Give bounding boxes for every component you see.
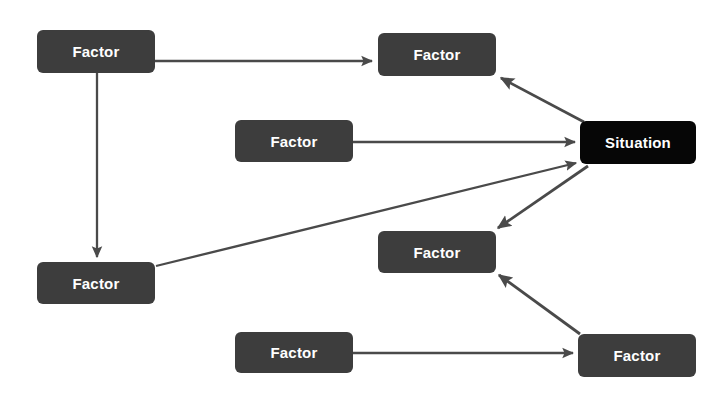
node-factor-bottom-left[interactable]: Factor bbox=[37, 262, 155, 304]
edge-situation-to-factor-mid-right bbox=[498, 166, 588, 228]
node-label: Factor bbox=[413, 245, 460, 260]
edge-factor-bottom-right-to-factor-mid-right bbox=[499, 275, 580, 334]
node-factor-bottom-right[interactable]: Factor bbox=[578, 334, 696, 377]
edge-situation-to-factor-top-right bbox=[501, 78, 584, 122]
node-label: Factor bbox=[613, 348, 660, 363]
node-label: Factor bbox=[270, 345, 317, 360]
node-factor-bottom-middle[interactable]: Factor bbox=[235, 332, 353, 373]
node-factor-top-right[interactable]: Factor bbox=[378, 33, 496, 76]
node-label: Factor bbox=[413, 47, 460, 62]
node-label: Factor bbox=[72, 276, 119, 291]
node-situation[interactable]: Situation bbox=[580, 121, 696, 164]
diagram-canvas: Factor Factor Factor Situation Factor Fa… bbox=[0, 0, 718, 407]
node-factor-middle[interactable]: Factor bbox=[235, 120, 353, 162]
edge-factor-bottom-left-to-situation bbox=[156, 163, 576, 266]
node-factor-top-left[interactable]: Factor bbox=[37, 30, 155, 73]
node-label: Factor bbox=[72, 44, 119, 59]
node-label: Situation bbox=[605, 135, 671, 150]
node-factor-mid-right[interactable]: Factor bbox=[378, 231, 496, 273]
node-label: Factor bbox=[270, 134, 317, 149]
